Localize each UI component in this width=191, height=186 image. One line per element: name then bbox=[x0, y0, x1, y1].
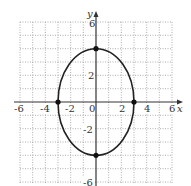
x-tick-label: 2 bbox=[119, 103, 125, 114]
x-tick-label: -6 bbox=[14, 103, 24, 114]
y-tick-label: 6 bbox=[89, 18, 95, 29]
x-tick-label: 4 bbox=[144, 103, 150, 114]
y-tick-label: -6 bbox=[83, 177, 93, 186]
ellipse-graph: -6 -4 -2 0 2 4 6 x y 6 2 -2 -6 bbox=[0, 0, 191, 186]
point-right bbox=[131, 99, 136, 104]
x-tick-label: 6 bbox=[169, 103, 175, 114]
point-left bbox=[55, 99, 60, 104]
axes bbox=[14, 13, 181, 186]
x-tick-label: 0 bbox=[89, 103, 95, 114]
y-tick-label: 2 bbox=[88, 70, 94, 81]
point-top bbox=[93, 46, 98, 51]
x-axis-label: x bbox=[177, 103, 183, 114]
x-tick-label: -4 bbox=[40, 103, 50, 114]
x-tick-label: -2 bbox=[65, 103, 75, 114]
point-bottom bbox=[93, 153, 98, 158]
y-axis-arrow-icon bbox=[94, 11, 99, 17]
y-tick-label: -2 bbox=[83, 124, 93, 135]
